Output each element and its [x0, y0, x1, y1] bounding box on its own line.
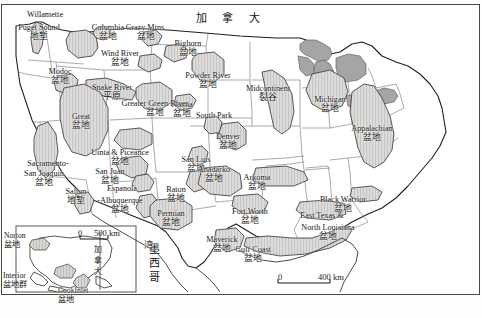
map-vector-layer [0, 0, 482, 318]
geologic-basin-map: WillamettePuget Sound地堑Columbia盆地Crazy M… [0, 0, 482, 318]
basin-columbia-small [93, 26, 110, 40]
main-scale-zero: 0 [278, 272, 282, 282]
inset-scale-value: 500 km [94, 228, 120, 238]
inset-scale-zero: 0 [78, 228, 82, 238]
main-scale-value: 400 km [318, 272, 344, 282]
